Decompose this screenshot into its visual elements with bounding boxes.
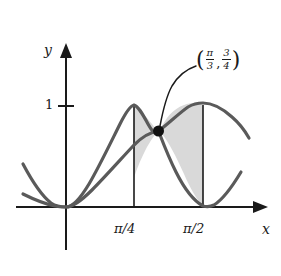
label-y-denominator: 4 <box>222 59 230 71</box>
y-axis-arrow <box>60 43 72 58</box>
label-open-paren: ( <box>196 49 205 71</box>
x-axis-arrow <box>253 201 268 213</box>
label-x-denominator: 3 <box>206 59 214 71</box>
curve-sin2x-squared <box>23 105 241 207</box>
y-tick-label-one: 1 <box>45 97 53 112</box>
y-axis-label: y <box>44 42 52 58</box>
plot-area <box>0 0 281 276</box>
figure-container: π/4 π/2 1 x y ( π 3 , 3 4 ) <box>0 0 281 276</box>
x-tick-label-pi-over-4: π/4 <box>114 221 135 236</box>
intersection-point-label: ( π 3 , 3 4 ) <box>196 48 240 71</box>
label-y-fraction: 3 4 <box>222 48 230 71</box>
label-y-numerator: 3 <box>222 48 230 59</box>
label-x-numerator: π <box>206 48 215 59</box>
x-axis-label: x <box>262 221 270 237</box>
label-close-paren: ) <box>232 49 241 71</box>
label-x-fraction: π 3 <box>206 48 215 71</box>
intersection-point-marker <box>153 126 164 137</box>
x-tick-label-pi-over-2: π/2 <box>183 221 204 236</box>
label-comma: , <box>216 56 220 71</box>
